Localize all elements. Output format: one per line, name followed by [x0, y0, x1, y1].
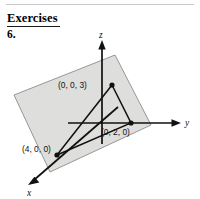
page-title: Exercises	[7, 12, 58, 25]
y-axis-arrowhead	[172, 119, 182, 126]
x-intercept-label: (4, 0, 0)	[22, 144, 51, 154]
figure-container: z y x (0, 0, 3) (0, 2, 0) (4, 0, 0)	[0, 32, 200, 199]
z-intercept-label: (0, 0, 3)	[58, 80, 87, 90]
exercise-figure-page: Exercises 6. z y x (0, 0, 3)	[0, 0, 200, 199]
z-axis-arrowhead	[98, 40, 105, 50]
z-axis-label: z	[98, 32, 103, 40]
x-axis-arrowhead	[28, 177, 39, 185]
x-intercept-dot	[54, 152, 59, 157]
page-title-underline	[7, 26, 60, 27]
y-intercept-dot	[128, 120, 133, 125]
page-top-divider	[6, 4, 194, 5]
y-axis-label: y	[184, 118, 190, 128]
y-intercept-label: (0, 2, 0)	[101, 127, 130, 137]
plane-region	[14, 55, 151, 172]
z-intercept-dot	[109, 82, 114, 87]
x-axis-label: x	[26, 188, 32, 198]
